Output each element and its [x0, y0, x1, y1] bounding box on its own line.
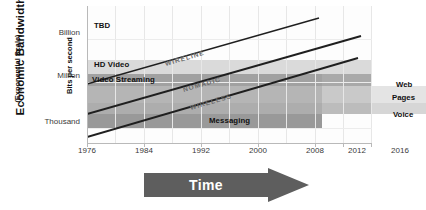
right-legend-pages: Pages [392, 93, 415, 102]
category-label-messaging: Messaging [209, 116, 250, 125]
x-axis-line [87, 143, 372, 144]
plot-area: TBD HD Video Video Streaming Messaging W… [87, 6, 372, 143]
category-label-video-streaming: Video Streaming [92, 75, 155, 84]
x-tick-2000: 2000 [238, 146, 278, 155]
x-tick-2012: 2012 [337, 146, 377, 155]
x-tick-1984: 1984 [124, 146, 164, 155]
right-legend-voice: Voice [393, 110, 413, 119]
category-label-tbd: TBD [94, 21, 110, 30]
right-legend-web: Web [396, 80, 412, 89]
time-axis-label: Time [144, 168, 268, 202]
y-tick-million: Million [24, 71, 80, 80]
y-axis-subtitle: (Exponential Scale) [13, 10, 24, 128]
time-axis-arrow: Time [144, 168, 310, 202]
x-axis-tick-labels: 1976 1984 1992 2000 2008 2012 2016 [0, 146, 426, 158]
x-tick-1992: 1992 [181, 146, 221, 155]
y-tick-billion: Billion [24, 28, 80, 37]
x-tick-2008: 2008 [295, 146, 335, 155]
category-label-hd-video: HD Video [94, 60, 129, 69]
y-axis-title-group: Economic Bandwidth (Exponential Scale) [0, 0, 33, 165]
x-tick-2016: 2016 [380, 146, 420, 155]
bandwidth-growth-chart: Economic Bandwidth (Exponential Scale) B… [0, 0, 426, 210]
y-tick-thousand: Thousand [18, 117, 80, 126]
x-tick-1976: 1976 [67, 146, 107, 155]
